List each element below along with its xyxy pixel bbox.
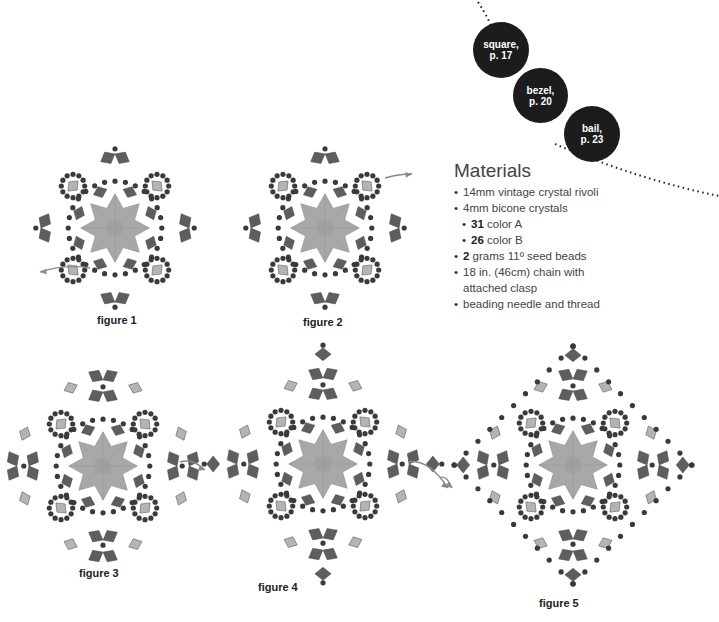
figure-5-caption: figure 5 (539, 597, 579, 609)
figure-1-caption: figure 1 (97, 314, 137, 326)
figure-3-caption: figure 3 (79, 567, 119, 579)
figure-1-diagram (0, 0, 719, 622)
figure-4-caption: figure 4 (258, 581, 298, 593)
figure-2-caption: figure 2 (303, 316, 343, 328)
